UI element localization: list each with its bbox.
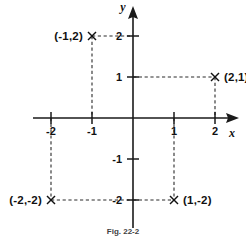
y-tick-label-neg2: -2	[112, 194, 122, 206]
x-tick-label-pos1: 1	[171, 125, 177, 137]
x-axis-label: x	[228, 126, 235, 140]
point-label-1-neg2: (1,-2)	[183, 194, 212, 206]
y-tick-label-neg1: -1	[112, 153, 122, 165]
x-tick-label-pos2: 2	[212, 125, 218, 137]
axis-names-group: x y	[118, 0, 235, 140]
figure-container: -2 -1 1 2 2 1 -1 -2 x y	[0, 0, 246, 236]
x-tick-label-neg1: -1	[87, 125, 97, 137]
point-label-neg2-neg2: (-2,-2)	[9, 194, 42, 206]
data-point-marker-1-neg2[interactable]	[170, 196, 178, 204]
y-tick-label-pos1: 1	[116, 71, 122, 83]
figure-caption: Fig. 22-2	[107, 227, 140, 236]
point-label-2-1: (2,1)	[224, 71, 246, 83]
point-label-neg1-2: (-1,2)	[54, 30, 83, 42]
cartesian-plane-diagram: -2 -1 1 2 2 1 -1 -2 x y	[0, 0, 246, 236]
y-axis-label: y	[118, 0, 126, 14]
x-tick-label-neg2: -2	[46, 125, 56, 137]
y-tick-label-pos2: 2	[116, 30, 122, 42]
